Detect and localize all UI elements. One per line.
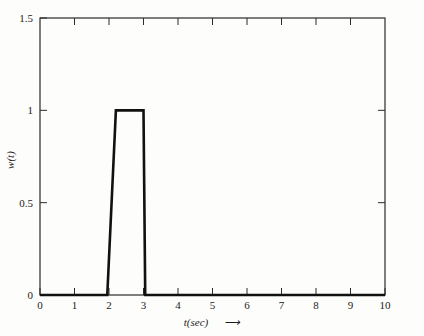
figure-container: 0 1 2 3 4 5 6 7 8 9 10 0 0.5 1 1.5 w(t) … xyxy=(0,0,424,336)
x-tick-label: 8 xyxy=(313,299,319,311)
x-tick-label: 4 xyxy=(175,299,181,311)
x-tick-label: 7 xyxy=(279,299,285,311)
x-tick-label: 0 xyxy=(37,299,43,311)
x-axis-title: t(sec) xyxy=(184,316,209,329)
y-tick-label: 1.5 xyxy=(19,12,33,24)
x-tick-label: 9 xyxy=(348,299,354,311)
x-tick-label: 2 xyxy=(106,299,112,311)
x-tick-label: 6 xyxy=(244,299,250,311)
y-axis-tick-labels: 0 0.5 1 1.5 xyxy=(19,12,33,301)
y-axis-ticks-right xyxy=(378,110,385,202)
data-series-pulse xyxy=(40,110,385,295)
pulse-chart: 0 1 2 3 4 5 6 7 8 9 10 0 0.5 1 1.5 w(t) … xyxy=(0,0,424,336)
y-axis-title: w(t) xyxy=(4,151,17,169)
x-tick-label: 5 xyxy=(210,299,216,311)
y-axis-ticks-left xyxy=(40,18,47,295)
y-tick-label: 1 xyxy=(28,104,34,116)
x-axis-title-group: t(sec) ⟶ xyxy=(184,316,241,329)
y-tick-label: 0 xyxy=(28,289,34,301)
plot-frame xyxy=(40,18,385,295)
x-axis-arrow-icon: ⟶ xyxy=(224,316,241,328)
x-axis-tick-labels: 0 1 2 3 4 5 6 7 8 9 10 xyxy=(37,299,391,311)
x-tick-label: 1 xyxy=(72,299,78,311)
x-tick-label: 3 xyxy=(141,299,147,311)
x-tick-label: 10 xyxy=(380,299,392,311)
y-tick-label: 0.5 xyxy=(19,197,33,209)
x-axis-ticks-top xyxy=(75,18,351,25)
